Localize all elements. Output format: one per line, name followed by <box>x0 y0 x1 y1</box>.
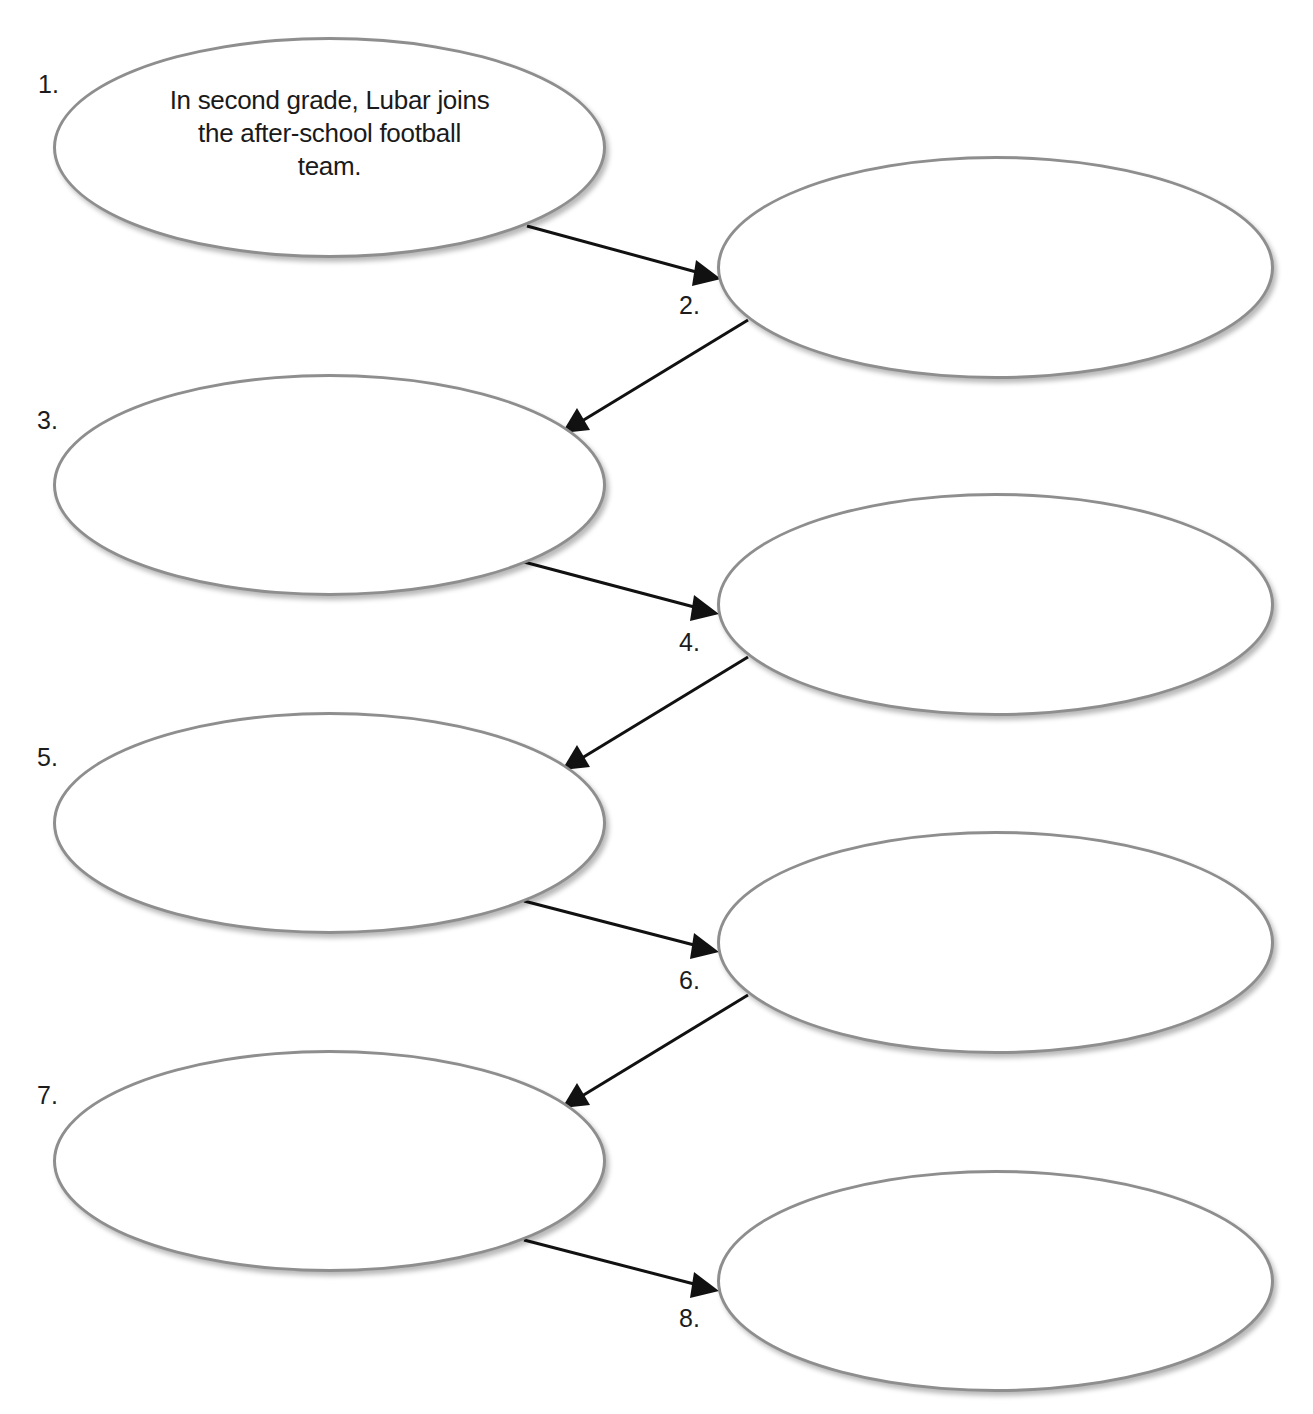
sequence-diagram: 1. In second grade, Lubar joins the afte… <box>0 0 1313 1414</box>
step-number-1: 1. <box>38 72 59 97</box>
step-ellipse-4[interactable] <box>717 493 1274 716</box>
arrow-6-to-7 <box>562 995 748 1108</box>
arrow-1-to-2 <box>527 226 721 286</box>
step-ellipse-5[interactable] <box>53 712 606 934</box>
arrow-5-to-6 <box>524 901 719 959</box>
step-number-6: 6. <box>679 968 700 993</box>
step-ellipse-1[interactable]: In second grade, Lubar joins the after-s… <box>53 37 606 258</box>
arrow-7-to-8 <box>524 1240 719 1298</box>
step-ellipse-2[interactable] <box>717 156 1274 379</box>
arrow-2-to-3 <box>562 320 748 433</box>
arrow-3-to-4 <box>524 562 719 621</box>
step-number-5: 5. <box>37 745 58 770</box>
step-number-4: 4. <box>679 630 700 655</box>
step-ellipse-3[interactable] <box>53 374 606 596</box>
step-number-3: 3. <box>37 408 58 433</box>
step-number-8: 8. <box>679 1306 700 1331</box>
step-text-1: In second grade, Lubar joins the after-s… <box>170 84 490 183</box>
step-ellipse-8[interactable] <box>717 1170 1274 1392</box>
step-number-7: 7. <box>37 1083 58 1108</box>
step-ellipse-6[interactable] <box>717 831 1274 1054</box>
step-ellipse-7[interactable] <box>53 1050 606 1272</box>
step-number-2: 2. <box>679 293 700 318</box>
arrow-4-to-5 <box>562 657 748 770</box>
